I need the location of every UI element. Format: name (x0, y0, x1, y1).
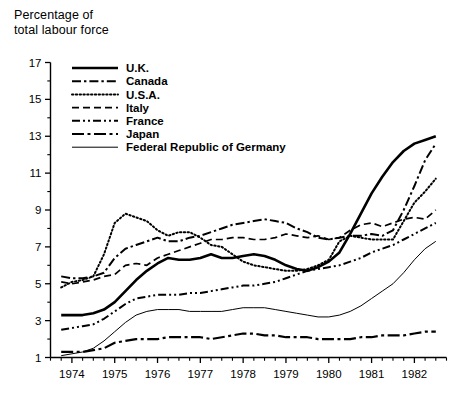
y-tick-label: 13 (29, 130, 42, 142)
legend-label: France (126, 115, 164, 127)
x-tick-label: 1978 (230, 368, 256, 380)
x-tick-label: 1976 (145, 368, 171, 380)
y-tick-label: 7 (35, 241, 41, 253)
axes-layer: 1357911131517197419751976197719781979198… (29, 57, 447, 380)
legend-label: Japan (126, 128, 159, 140)
y-axis-title: Percentage of total labour force (14, 8, 109, 38)
line-chart-plot: 1357911131517197419751976197719781979198… (0, 0, 460, 396)
y-axis-title-line1: Percentage of (14, 8, 93, 22)
series-layer (61, 136, 436, 355)
y-tick-label: 5 (35, 278, 41, 290)
x-tick-label: 1979 (273, 368, 299, 380)
legend-label: Federal Republic of Germany (126, 141, 286, 153)
legend-label: Italy (126, 102, 150, 114)
legend-label: U.S.A. (126, 89, 160, 101)
y-tick-label: 9 (35, 204, 41, 216)
x-tick-label: 1977 (188, 368, 214, 380)
x-tick-label: 1980 (316, 368, 342, 380)
legend-label: Canada (126, 75, 168, 87)
y-tick-label: 3 (35, 315, 41, 327)
y-tick-label: 15 (29, 93, 42, 105)
chart-container: Percentage of total labour force 1357911… (0, 0, 460, 396)
y-axis-title-line2: total labour force (14, 23, 109, 37)
legend-label: U.K. (126, 62, 149, 74)
y-tick-label: 17 (29, 57, 42, 69)
x-tick-label: 1974 (59, 368, 85, 380)
x-tick-label: 1975 (102, 368, 128, 380)
series-line (61, 144, 436, 279)
y-tick-label: 1 (35, 352, 41, 364)
legend-layer: U.K.CanadaU.S.A.ItalyFranceJapanFederal … (72, 62, 286, 153)
x-tick-label: 1981 (359, 368, 385, 380)
x-tick-label: 1982 (402, 368, 428, 380)
y-tick-label: 11 (30, 167, 42, 179)
series-line (61, 332, 436, 352)
